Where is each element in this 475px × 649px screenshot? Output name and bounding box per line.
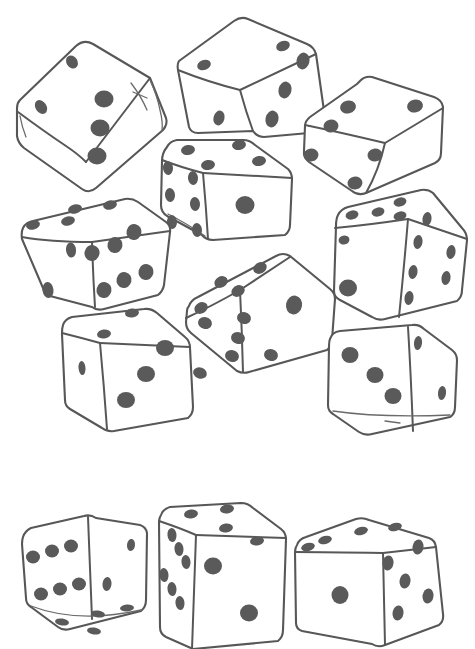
die-11-pip: [240, 605, 258, 622]
die-9-pip: [385, 388, 402, 404]
die-10-pip: [26, 551, 40, 564]
illustration-page: [0, 0, 475, 649]
dice-illustration: [0, 0, 475, 649]
die-12-pip: [332, 586, 349, 604]
die-8: [62, 308, 193, 432]
die-4-pip: [236, 196, 255, 214]
die-1-pip: [91, 120, 110, 137]
die-1: [17, 42, 167, 191]
die-9-pip: [342, 347, 359, 363]
die-1-pip: [88, 148, 107, 165]
die-12: [295, 518, 443, 646]
die-10-pip: [72, 578, 86, 591]
die-10: [22, 515, 147, 635]
die-11: [159, 503, 286, 649]
die-10-pip: [64, 540, 78, 553]
die-9: [328, 325, 457, 435]
die-6-pip: [339, 280, 357, 297]
die-10-pip: [45, 545, 59, 558]
die-11-pip: [204, 558, 222, 575]
die-10-pip: [87, 627, 102, 636]
die-7-pip: [192, 365, 209, 380]
die-6: [334, 190, 467, 320]
die-8-pip: [117, 392, 135, 408]
die-7: [186, 254, 335, 381]
die-8-pip: [156, 340, 174, 356]
die-2: [178, 18, 325, 137]
die-1-pip: [95, 91, 114, 108]
die-9-pip: [367, 367, 384, 383]
die-4: [161, 139, 292, 240]
die-5: [22, 199, 171, 310]
die-10-pip: [34, 588, 48, 601]
die-8-pip: [137, 366, 155, 382]
die-3: [302, 77, 443, 194]
die-10-pip: [53, 583, 67, 596]
